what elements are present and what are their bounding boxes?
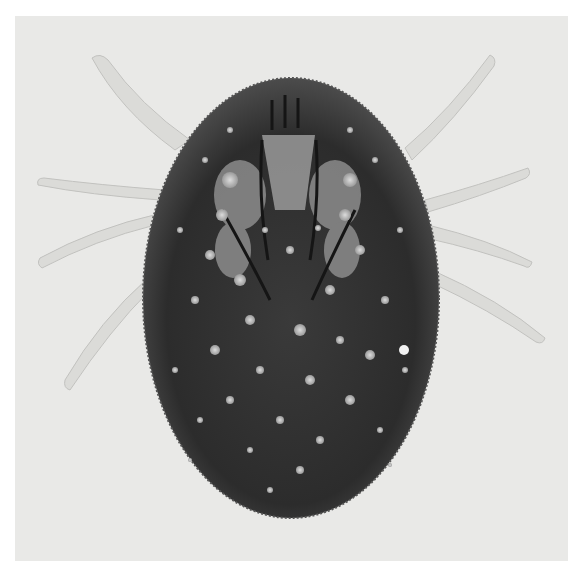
mite-illustration [15,16,568,561]
specimen-photo [15,16,568,561]
